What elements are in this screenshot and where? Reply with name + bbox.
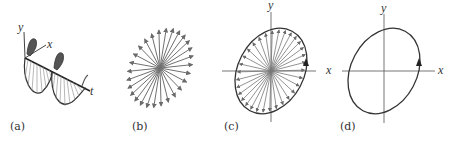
panel-d-ellipse: [334, 14, 435, 126]
axis-label-t-a: t: [90, 84, 93, 99]
caption-c: (c): [224, 120, 239, 133]
panel-c-ellipse: [221, 12, 322, 126]
caption-a: (a): [10, 120, 25, 133]
panel-a-helix: [24, 32, 90, 106]
axis-label-y-d: y: [381, 1, 386, 16]
axis-label-x-d: x: [438, 63, 443, 78]
caption-b: (b): [132, 120, 148, 133]
axis-label-x-a: x: [47, 37, 52, 52]
axis-label-y-c: y: [268, 0, 273, 13]
caption-d: (d): [340, 120, 356, 133]
axis-label-y-a: y: [18, 20, 23, 35]
panel-b-vectors: [127, 29, 193, 108]
axis-label-x-c: x: [326, 63, 331, 78]
